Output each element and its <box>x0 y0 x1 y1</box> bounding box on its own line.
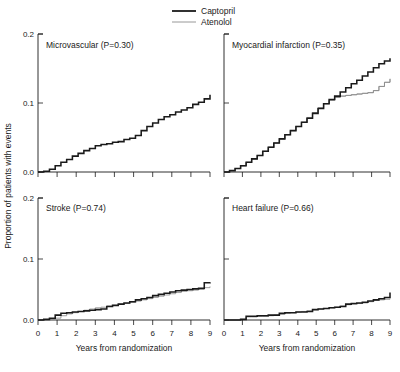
x-tick-label-2-hf: 2 <box>259 329 264 338</box>
x-ticks-heart-failure <box>224 320 390 325</box>
panel-axes-stroke <box>38 198 210 320</box>
curve-captopril-stroke <box>38 282 210 320</box>
curve-captopril-heart-failure <box>224 293 390 320</box>
panel-myocardial-infarction: Myocardial infarction (P=0.35) <box>224 34 390 177</box>
x-axis-title-heart-failure: Years from randomization <box>259 343 356 353</box>
legend-label-captopril: Captopril <box>201 6 235 16</box>
panel-microvascular: 0.0 0.1 0.2 Microvascular (P=0.30) <box>23 30 390 177</box>
legend-label-atenolol: Atenolol <box>201 17 232 27</box>
x-ticks-stroke <box>38 320 210 325</box>
panel-title-stroke: Stroke (P=0.74) <box>46 203 106 213</box>
panel-title-heart-failure: Heart failure (P=0.66) <box>232 203 314 213</box>
x-tick-label-0: 0 <box>36 329 41 338</box>
x-axis-title-stroke: Years from randomization <box>76 343 173 353</box>
panel-heart-failure: 0 1 2 3 4 5 6 7 8 9 Years from randomiza… <box>222 198 393 353</box>
y-axis-title: Proportion of patients with events <box>3 123 13 249</box>
x-tick-label-9: 9 <box>208 329 213 338</box>
x-tick-label-8-hf: 8 <box>369 329 374 338</box>
panel-axes-microvascular <box>38 34 210 172</box>
curve-captopril-microvascular <box>38 95 210 172</box>
x-tick-label-5-hf: 5 <box>314 329 319 338</box>
x-tick-label-7-hf: 7 <box>351 329 356 338</box>
y-tick-label-0-stroke: 0.0 <box>23 316 35 325</box>
panel-axes-myocardial-infarction <box>224 34 390 172</box>
x-tick-labels-stroke: 0 1 2 3 4 5 6 7 8 9 <box>36 329 213 338</box>
x-tick-label-4: 4 <box>112 329 117 338</box>
x-ticks-myocardial-infarction <box>224 172 390 177</box>
panel-title-microvascular: Microvascular (P=0.30) <box>46 40 134 50</box>
x-tick-label-6: 6 <box>150 329 155 338</box>
y-tick-label-1: 0.1 <box>23 99 35 108</box>
panel-stroke: 0.0 0.1 0.2 0 1 2 3 4 5 6 7 8 9 Years <box>23 194 213 353</box>
x-tick-label-6-hf: 6 <box>332 329 337 338</box>
x-tick-label-7: 7 <box>170 329 175 338</box>
y-tick-label-2-stroke: 0.2 <box>23 194 35 203</box>
curve-captopril-myocardial-infarction <box>224 58 390 172</box>
kaplan-meier-figure: Captopril Atenolol Proportion of patient… <box>0 0 400 372</box>
x-tick-label-1: 1 <box>55 329 60 338</box>
x-tick-label-2: 2 <box>74 329 79 338</box>
panel-title-myocardial-infarction: Myocardial infarction (P=0.35) <box>232 40 345 50</box>
y-tick-label-2: 0.2 <box>23 30 35 39</box>
curve-atenolol-microvascular <box>224 79 390 172</box>
x-tick-labels-heart-failure: 0 1 2 3 4 5 6 7 8 9 <box>222 329 393 338</box>
y-tick-label-0: 0.0 <box>23 168 35 177</box>
y-tick-label-1-stroke: 0.1 <box>23 255 35 264</box>
x-tick-label-9-hf: 9 <box>388 329 393 338</box>
x-tick-label-5: 5 <box>131 329 136 338</box>
curve-atenolol-myocardial-infarction <box>224 79 390 172</box>
legend: Captopril Atenolol <box>172 6 235 27</box>
x-tick-label-3: 3 <box>93 329 98 338</box>
x-tick-label-4-hf: 4 <box>296 329 301 338</box>
x-tick-label-1-hf: 1 <box>240 329 245 338</box>
x-tick-label-3-hf: 3 <box>277 329 282 338</box>
x-tick-label-8: 8 <box>189 329 194 338</box>
x-ticks-microvascular <box>38 172 210 177</box>
x-tick-label-0-hf: 0 <box>222 329 227 338</box>
